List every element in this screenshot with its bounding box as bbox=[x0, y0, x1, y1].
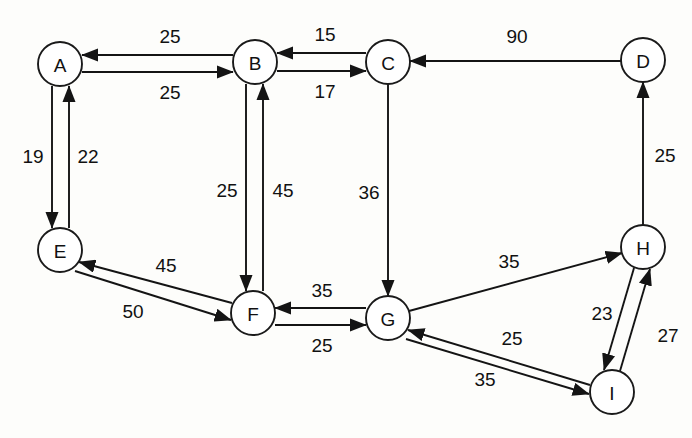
edge-weight-label-B-C: 17 bbox=[314, 81, 335, 102]
edge-weight-label-B-A: 25 bbox=[159, 26, 180, 47]
graph-node-f[interactable]: F bbox=[231, 291, 275, 335]
nodes-layer: ABCDEFGHI bbox=[38, 38, 665, 414]
edge-weight-label-D-C: 90 bbox=[506, 26, 527, 47]
graph-edge: 25 bbox=[643, 82, 676, 225]
edge-weight-label-F-E: 45 bbox=[155, 255, 176, 276]
node-label-i: I bbox=[609, 383, 614, 404]
graph-node-a[interactable]: A bbox=[38, 42, 82, 86]
node-label-e: E bbox=[54, 241, 67, 262]
edge-weight-label-G-F: 35 bbox=[311, 280, 332, 301]
node-label-b: B bbox=[249, 53, 262, 74]
edge-weight-label-H-D: 25 bbox=[654, 145, 675, 166]
graph-svg: 2525151790192225453625455035253523272535… bbox=[0, 0, 692, 438]
edge-weight-label-H-I: 23 bbox=[591, 303, 612, 324]
node-label-f: F bbox=[247, 304, 259, 325]
node-label-c: C bbox=[381, 53, 395, 74]
graph-node-g[interactable]: G bbox=[366, 296, 410, 340]
edge-weight-label-I-G: 25 bbox=[501, 328, 522, 349]
graph-node-c[interactable]: C bbox=[366, 40, 410, 84]
node-label-h: H bbox=[636, 238, 650, 259]
edge-weight-label-F-G: 25 bbox=[311, 335, 332, 356]
graph-edge: 22 bbox=[69, 86, 99, 228]
edge-weight-label-G-I: 35 bbox=[474, 369, 495, 390]
graph-node-e[interactable]: E bbox=[38, 228, 82, 272]
edge-weight-label-F-B: 45 bbox=[272, 180, 293, 201]
graph-node-b[interactable]: B bbox=[233, 40, 277, 84]
graph-edge: 35 bbox=[275, 280, 366, 309]
graph-edge: 35 bbox=[406, 339, 589, 394]
graph-edge: 45 bbox=[263, 84, 294, 291]
edge-weight-label-E-A: 22 bbox=[77, 146, 98, 167]
edge-arrow-I-to-G bbox=[408, 330, 590, 385]
graph-edge: 36 bbox=[358, 84, 388, 296]
graph-edge: 23 bbox=[591, 268, 634, 370]
graph-diagram-canvas: 2525151790192225453625455035253523272535… bbox=[0, 0, 692, 438]
edge-arrow-I-to-H bbox=[620, 269, 650, 371]
graph-edge: 25 bbox=[408, 328, 590, 386]
edge-weight-label-G-H: 35 bbox=[498, 251, 519, 272]
graph-edge: 25 bbox=[216, 84, 246, 291]
node-label-a: A bbox=[54, 55, 67, 76]
edge-weight-label-A-B: 25 bbox=[159, 82, 180, 103]
edge-weight-label-E-F: 50 bbox=[122, 301, 143, 322]
edge-weight-label-B-F: 25 bbox=[216, 180, 237, 201]
edge-weight-label-I-H: 27 bbox=[657, 325, 678, 346]
graph-node-h[interactable]: H bbox=[621, 225, 665, 269]
graph-edge: 15 bbox=[277, 24, 366, 54]
edges-layer: 2525151790192225453625455035253523272535 bbox=[22, 24, 678, 395]
node-label-d: D bbox=[636, 51, 650, 72]
graph-edge: 25 bbox=[275, 325, 366, 356]
edge-weight-label-A-E: 19 bbox=[22, 146, 43, 167]
graph-edge: 25 bbox=[82, 72, 233, 103]
edge-weight-label-C-B: 15 bbox=[314, 24, 335, 45]
graph-edge: 35 bbox=[409, 251, 622, 312]
graph-node-i[interactable]: I bbox=[590, 370, 634, 414]
graph-edge: 19 bbox=[22, 86, 52, 228]
graph-node-d[interactable]: D bbox=[621, 38, 665, 82]
edge-weight-label-C-G: 36 bbox=[358, 182, 379, 203]
graph-edge: 17 bbox=[277, 71, 366, 102]
graph-edge: 25 bbox=[82, 26, 233, 56]
graph-edge: 90 bbox=[410, 26, 621, 62]
edge-arrow-G-to-I bbox=[406, 339, 589, 394]
node-label-g: G bbox=[381, 309, 396, 330]
